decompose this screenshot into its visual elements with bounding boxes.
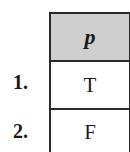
row-label-2: 2. [13, 120, 28, 143]
truth-table: p T F [49, 12, 130, 152]
row-label-1: 1. [13, 71, 28, 94]
table-cell-row-1: T [51, 62, 129, 110]
table-cell-row-2: F [51, 110, 129, 152]
column-header-p: p [51, 14, 129, 62]
